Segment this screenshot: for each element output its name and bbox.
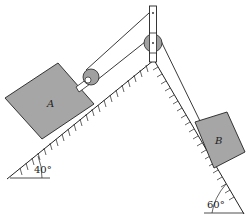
top-pulley (144, 33, 162, 53)
diagram-canvas: 40° 60° (0, 0, 249, 218)
left-angle-label: 40° (34, 164, 52, 175)
block-B: B (195, 112, 245, 168)
pulley-axle (152, 42, 154, 44)
right-angle-label: 60° (207, 199, 225, 210)
post-pin-top (152, 12, 154, 14)
block-A: A (5, 63, 94, 139)
block-A-pulley (83, 69, 99, 85)
block-A-label: A (46, 98, 54, 109)
block-B-label: B (214, 135, 222, 146)
